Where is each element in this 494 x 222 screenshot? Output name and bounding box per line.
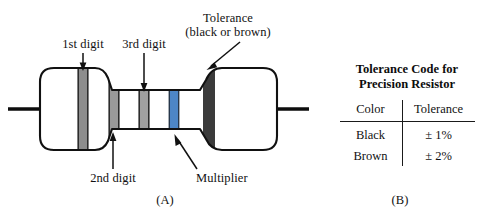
table-head: Color Tolerance	[340, 100, 475, 122]
band-multiplier-edge-l	[169, 60, 170, 160]
table-title-line2: Precision Resistor	[326, 77, 488, 92]
band-2nd-digit	[110, 60, 118, 160]
figure-page: 1st digit 3rd digit Tolerance (black or …	[0, 0, 494, 222]
table-row: Brown ± 2%	[340, 145, 475, 166]
table-title-line1: Tolerance Code for	[356, 62, 458, 76]
band-2nd-digit-edge-r	[118, 60, 120, 160]
label-third-digit: 3rd digit	[122, 38, 166, 52]
label-second-digit: 2nd digit	[90, 172, 136, 186]
band-1st-digit-edge-l	[77, 60, 79, 160]
table-title: Tolerance Code for Precision Resistor	[326, 62, 488, 91]
panel-a-label: (A)	[156, 194, 174, 208]
label-tolerance: Tolerance (black or brown)	[185, 12, 271, 39]
cell-tolerance-black: ± 1%	[402, 122, 475, 146]
tolerance-table-block: Tolerance Code for Precision Resistor Co…	[326, 62, 488, 166]
table-body: Black ± 1% Brown ± 2%	[340, 122, 475, 167]
leader-multiplier	[174, 134, 197, 169]
table-header-tolerance: Tolerance	[402, 100, 475, 122]
leader-second-digit	[110, 132, 117, 169]
resistor-body	[40, 68, 277, 150]
cell-color-black: Black	[340, 122, 403, 146]
table-row: Black ± 1%	[340, 122, 475, 146]
band-3rd-digit-edge-l	[138, 60, 140, 160]
band-3rd-digit-edge-r	[148, 60, 150, 160]
leader-third-digit	[141, 53, 148, 92]
panel-b-label: (B)	[392, 194, 409, 208]
label-tolerance-line2: (black or brown)	[185, 26, 271, 40]
label-tolerance-line1: Tolerance	[203, 11, 253, 25]
cell-tolerance-brown: ± 2%	[402, 145, 475, 166]
tolerance-table: Color Tolerance Black ± 1% Brown ± 2%	[340, 100, 475, 166]
leader-tolerance	[207, 42, 241, 70]
label-multiplier: Multiplier	[196, 172, 248, 186]
band-1st-digit	[79, 60, 87, 160]
label-first-digit: 1st digit	[62, 38, 104, 52]
table-header-color: Color	[340, 100, 403, 122]
table-header-row: Color Tolerance	[340, 100, 475, 122]
band-multiplier-edge-r	[178, 60, 179, 160]
band-2nd-digit-edge-l	[108, 60, 110, 160]
cell-color-brown: Brown	[340, 145, 403, 166]
band-1st-digit-edge-r	[87, 60, 89, 160]
